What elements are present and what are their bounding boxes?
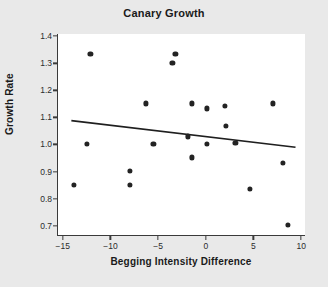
plot-frame [57, 34, 305, 236]
x-tick-label: −10 [103, 241, 117, 251]
scatter-point [170, 61, 175, 66]
scatter-point [281, 160, 286, 165]
scatter-point [143, 101, 148, 106]
scatter-point [151, 141, 156, 146]
x-tick-mark [157, 236, 158, 240]
scatter-point [204, 141, 209, 146]
scatter-point [285, 223, 290, 228]
y-tick-label: 1.2 [26, 85, 52, 95]
scatter-point [173, 52, 178, 57]
scatter-point [84, 141, 89, 146]
scatter-point [185, 134, 190, 139]
scatter-point [204, 106, 209, 111]
x-tick-mark [62, 236, 63, 240]
y-tick-label: 0.8 [26, 194, 52, 204]
scatter-point [270, 101, 275, 106]
x-tick-mark [205, 236, 206, 240]
scatter-point [189, 101, 194, 106]
scatter-point [222, 103, 227, 108]
scatter-point [127, 182, 132, 187]
scatter-point [127, 168, 132, 173]
x-tick-mark [253, 236, 254, 240]
x-tick-mark [110, 236, 111, 240]
scatter-point [247, 187, 252, 192]
y-axis-title: Growth Rate [4, 73, 15, 135]
scatter-point [233, 141, 238, 146]
scatter-point [72, 182, 77, 187]
chart-title: Canary Growth [0, 7, 328, 19]
y-tick-label: 1.0 [26, 139, 52, 149]
x-tick-label: −5 [153, 241, 163, 251]
y-tick-label: 0.7 [26, 221, 52, 231]
y-tick-label: 0.9 [26, 167, 52, 177]
chart-figure: Canary Growth Growth Rate 0.70.80.91.01.… [0, 0, 328, 287]
y-tick-label: 1.4 [26, 31, 52, 41]
x-tick-label: −15 [56, 241, 70, 251]
scatter-points-layer [58, 34, 305, 235]
x-axis-title: Begging Intensity Difference [57, 256, 305, 267]
x-tick-label: 10 [296, 241, 305, 251]
y-tick-label: 1.1 [26, 112, 52, 122]
scatter-point [88, 52, 93, 57]
x-tick-mark [301, 236, 302, 240]
y-tick-label: 1.3 [26, 58, 52, 68]
x-tick-label: 5 [251, 241, 256, 251]
x-tick-label: 0 [203, 241, 208, 251]
scatter-point [189, 155, 194, 160]
scatter-point [223, 123, 228, 128]
